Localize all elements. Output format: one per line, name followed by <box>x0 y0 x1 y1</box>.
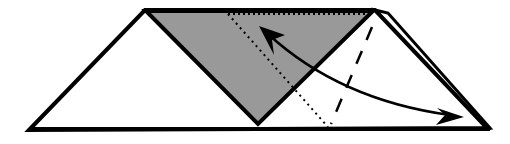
origami-diagram <box>0 0 510 144</box>
